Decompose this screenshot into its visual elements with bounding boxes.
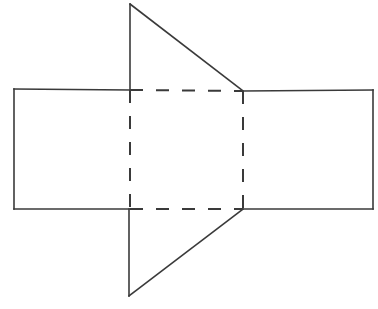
geometric-figure [0,0,378,309]
bottom-flap-diagonal-edge [129,209,243,296]
rect-top-right-segment [243,90,373,91]
rect-top-left-segment [14,89,130,90]
hidden-square-top-edge [130,90,243,91]
top-flap-diagonal-edge [130,4,243,91]
diagram-canvas [0,0,378,309]
